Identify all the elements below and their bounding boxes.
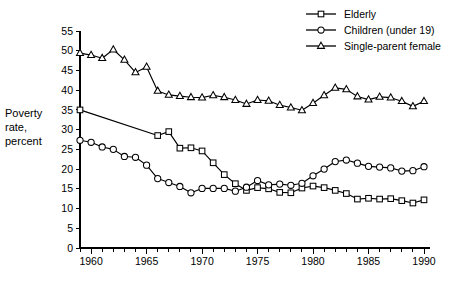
data-point-square [399, 198, 405, 204]
y-tick-label: 30 [61, 123, 73, 135]
legend-label: Elderly [344, 8, 377, 20]
poverty-rate-chart-figure: 0510152025303540455055196019651970197519… [0, 0, 474, 285]
series-line [80, 140, 424, 192]
legend-item-children-under-19: Children (under 19) [306, 24, 434, 36]
data-point-square [410, 200, 416, 206]
y-axis-title-line: rate, [5, 121, 27, 133]
y-axis-title-line: percent [5, 135, 42, 147]
x-tick-label: 1990 [412, 255, 436, 267]
data-point-triangle [254, 96, 261, 102]
chart-series-group [77, 46, 428, 206]
data-point-square [255, 185, 261, 191]
data-point-circle [221, 185, 227, 191]
x-tick-label: 1960 [79, 255, 103, 267]
data-point-square [366, 195, 372, 201]
x-tick-label: 1970 [190, 255, 214, 267]
data-point-circle [354, 160, 360, 166]
chart-axes: 0510152025303540455055196019651970197519… [61, 25, 436, 267]
data-point-square [388, 196, 394, 202]
data-point-circle [288, 182, 294, 188]
x-tick-label: 1985 [357, 255, 381, 267]
data-point-square [377, 196, 383, 202]
legend-label: Children (under 19) [344, 24, 434, 36]
y-tick-label: 55 [61, 25, 73, 37]
data-point-square [310, 183, 316, 189]
legend-marker-square [318, 11, 324, 17]
data-point-circle [132, 154, 138, 160]
y-tick-label: 45 [61, 64, 73, 76]
y-tick-label: 0 [67, 242, 73, 254]
data-point-circle [343, 157, 349, 163]
data-point-square [188, 145, 194, 151]
data-point-circle [377, 164, 383, 170]
x-tick-label: 1980 [301, 255, 325, 267]
data-point-triangle [210, 91, 217, 97]
data-point-circle [121, 153, 127, 159]
data-point-square [355, 196, 361, 202]
data-point-circle [155, 175, 161, 181]
x-axis-ticks: 1960196519701975198019851990 [79, 248, 435, 267]
series-single-parent-female [77, 46, 428, 113]
data-point-circle [232, 188, 238, 194]
data-point-square [221, 172, 227, 178]
y-tick-label: 20 [61, 163, 73, 175]
data-point-circle [210, 185, 216, 191]
data-point-square [332, 188, 338, 194]
legend-label: Single-parent female [344, 40, 441, 52]
series-line [80, 50, 424, 111]
data-point-triangle [77, 49, 84, 55]
data-point-triangle [332, 84, 339, 90]
data-point-circle [177, 183, 183, 189]
y-tick-label: 25 [61, 143, 73, 155]
data-point-square [288, 190, 294, 196]
data-point-square [344, 191, 350, 197]
data-point-triangle [154, 87, 161, 93]
data-point-circle [310, 173, 316, 179]
data-point-square [210, 160, 216, 166]
data-point-circle [410, 168, 416, 174]
data-point-circle [254, 177, 260, 183]
data-point-square [166, 129, 172, 135]
legend-item-elderly: Elderly [306, 8, 377, 20]
data-point-circle [199, 185, 205, 191]
data-point-triangle [354, 93, 361, 99]
y-tick-label: 10 [61, 202, 73, 214]
data-point-circle [277, 181, 283, 187]
data-point-circle [299, 180, 305, 186]
data-point-circle [421, 164, 427, 170]
data-point-circle [243, 184, 249, 190]
data-point-circle [110, 146, 116, 152]
data-point-circle [365, 163, 371, 169]
data-point-square [155, 133, 161, 139]
data-point-square [233, 181, 239, 187]
axis-lines [80, 31, 430, 248]
y-tick-label: 40 [61, 84, 73, 96]
data-point-square [421, 197, 427, 203]
data-point-circle [388, 165, 394, 171]
data-point-triangle [421, 97, 428, 103]
data-point-circle [321, 166, 327, 172]
series-children-under-19 [77, 137, 427, 196]
data-point-circle [399, 168, 405, 174]
legend-marker-triangle [318, 42, 325, 48]
chart-legend: ElderlyChildren (under 19)Single-parent … [306, 8, 441, 52]
poverty-rate-line-chart: 0510152025303540455055196019651970197519… [0, 0, 474, 285]
data-point-circle [99, 144, 105, 150]
y-axis-title-line: Poverty [5, 107, 43, 119]
legend-marker-circle [318, 27, 324, 33]
data-point-triangle [143, 63, 150, 69]
data-point-circle [332, 158, 338, 164]
data-point-triangle [321, 91, 328, 97]
data-point-triangle [310, 99, 317, 105]
x-tick-label: 1975 [246, 255, 270, 267]
data-point-square [177, 145, 183, 151]
legend-item-single-parent-female: Single-parent female [306, 40, 441, 52]
data-point-square [321, 185, 327, 191]
y-tick-label: 50 [61, 44, 73, 56]
data-point-triangle [376, 93, 383, 99]
y-tick-label: 5 [67, 222, 73, 234]
data-point-square [277, 190, 283, 196]
data-point-circle [143, 162, 149, 168]
data-point-circle [88, 139, 94, 145]
data-point-circle [266, 182, 272, 188]
